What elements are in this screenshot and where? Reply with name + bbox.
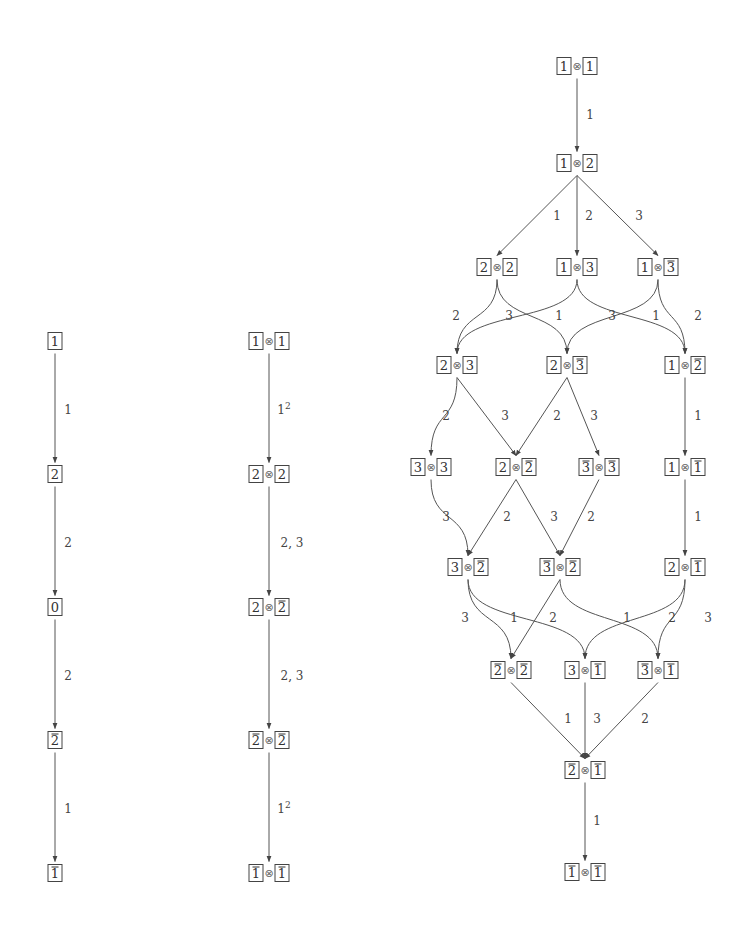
crystal-node: 0 xyxy=(48,599,62,616)
tableau-entry: 2 xyxy=(586,156,594,171)
edge-color-label: 2, 3 xyxy=(281,669,304,683)
tensor-product-symbol: ⊗ xyxy=(653,664,662,677)
tableau-entry: 2 xyxy=(252,600,260,615)
edge-color-label: 2 xyxy=(641,712,649,726)
tableau-entry: 3 xyxy=(568,663,576,678)
edge-color-label: 2 xyxy=(549,611,557,625)
tableau-entry: 2 xyxy=(440,358,448,373)
tableau-entry: 2 xyxy=(480,260,488,275)
edge-color-label: 3 xyxy=(550,510,558,524)
edge-color-label: 2 xyxy=(553,409,561,423)
tableau-entry: 2 xyxy=(477,560,485,575)
crystal-node: 2⊗2 xyxy=(249,732,289,749)
crystal-edge-arrow xyxy=(497,176,577,256)
tensor-product-symbol: ⊗ xyxy=(463,561,472,574)
tableau-entry: 2 xyxy=(569,560,577,575)
edge-color-label: 2 xyxy=(587,510,595,524)
tensor-product-symbol: ⊗ xyxy=(580,764,589,777)
edge-label-exponent: 2 xyxy=(285,800,291,810)
edge-color-label: 2 xyxy=(64,536,72,550)
crystal-node: 1⊗3 xyxy=(557,259,597,276)
edge-color-label: 3 xyxy=(635,209,643,223)
tableau-entry: 1 xyxy=(252,866,260,881)
tableau-entry: 3 xyxy=(641,663,649,678)
tableau-entry: 1 xyxy=(694,560,702,575)
tableau-entry: 2 xyxy=(278,600,286,615)
edge-color-label: 2 xyxy=(503,510,511,524)
crystal-node: 1⊗1 xyxy=(565,864,605,881)
edge-color-label: 1 xyxy=(652,309,660,323)
edge-color-label: 12 xyxy=(277,800,290,816)
crystal-node: 3⊗1 xyxy=(565,662,605,679)
crystal-node: 2⊗3 xyxy=(547,357,587,374)
tensor-product-symbol: ⊗ xyxy=(572,60,581,73)
tensor-product-symbol: ⊗ xyxy=(572,261,581,274)
crystal-node: 2 xyxy=(48,466,62,483)
tableau-entry: 3 xyxy=(576,358,584,373)
tableau-entry: 3 xyxy=(667,260,675,275)
crystal-node: 2⊗2 xyxy=(496,459,536,476)
tableau-entry: 2 xyxy=(568,763,576,778)
tableau-entry: 1 xyxy=(560,59,568,74)
edge-color-label: 1 xyxy=(64,403,72,417)
tableau-entry: 2 xyxy=(525,460,533,475)
crystal-edge-arrow xyxy=(560,580,658,659)
tensor-product-symbol: ⊗ xyxy=(653,261,662,274)
crystal-node: 1⊗3 xyxy=(638,259,678,276)
edge-color-label: 2 xyxy=(694,309,702,323)
edge-color-label: 3 xyxy=(442,510,450,524)
crystal-node: 3⊗2 xyxy=(540,559,580,576)
crystal-node: 1 xyxy=(48,865,62,882)
tensor-product-symbol: ⊗ xyxy=(452,359,461,372)
tableau-entry: 1 xyxy=(668,460,676,475)
tableau-entry: 3 xyxy=(543,560,551,575)
tensor-product-symbol: ⊗ xyxy=(264,468,273,481)
tensor-product-symbol: ⊗ xyxy=(594,461,603,474)
edge-color-label: 2 xyxy=(64,669,72,683)
edge-color-label: 3 xyxy=(590,409,598,423)
edge-color-label: 3 xyxy=(505,309,513,323)
edge-label-exponent: 2 xyxy=(285,401,291,411)
edge-color-label: 3 xyxy=(501,409,509,423)
tensor-product-symbol: ⊗ xyxy=(680,359,689,372)
tableau-entry: 3 xyxy=(608,460,616,475)
crystal-edge-arrow xyxy=(577,280,685,354)
edge-color-label: 1 xyxy=(553,209,561,223)
tableau-entry: 3 xyxy=(451,560,459,575)
tableau-entry: 3 xyxy=(582,460,590,475)
edge-color-label: 1 xyxy=(694,510,702,524)
edge-color-label: 1 xyxy=(64,802,72,816)
edge-color-label: 2 xyxy=(452,309,460,323)
tableau-entry: 1 xyxy=(560,260,568,275)
tableau-entry: 2 xyxy=(252,733,260,748)
nodes-layer: 120211⊗12⊗22⊗22⊗21⊗11⊗11⊗22⊗21⊗31⊗32⊗32⊗… xyxy=(48,58,705,882)
tensor-product-symbol: ⊗ xyxy=(511,461,520,474)
tensor-product-symbol: ⊗ xyxy=(264,867,273,880)
crystal-node: 3⊗3 xyxy=(579,459,619,476)
edge-color-label: 1 xyxy=(586,108,594,122)
crystal-graph-figure: 1221122, 32, 312112323131223231323213121… xyxy=(0,0,751,926)
tensor-product-symbol: ⊗ xyxy=(680,461,689,474)
tensor-product-symbol: ⊗ xyxy=(555,561,564,574)
tableau-entry: 1 xyxy=(278,334,286,349)
tensor-product-symbol: ⊗ xyxy=(264,601,273,614)
tableau-entry: 1 xyxy=(568,865,576,880)
tableau-entry: 2 xyxy=(494,663,502,678)
tableau-entry: 1 xyxy=(594,663,602,678)
crystal-node: 1⊗1 xyxy=(249,333,289,350)
edge-color-label: 1 xyxy=(694,409,702,423)
crystal-node: 2 xyxy=(48,732,62,749)
crystal-edge-arrow xyxy=(511,683,585,759)
edge-color-label: 3 xyxy=(608,309,616,323)
tableau-entry: 3 xyxy=(466,358,474,373)
crystal-node: 2⊗2 xyxy=(249,466,289,483)
crystal-node: 2⊗3 xyxy=(437,357,477,374)
tableau-entry: 1 xyxy=(667,663,675,678)
crystal-node: 2⊗1 xyxy=(665,559,705,576)
tableau-entry: 2 xyxy=(520,663,528,678)
tableau-entry: 2 xyxy=(51,733,59,748)
tensor-product-symbol: ⊗ xyxy=(572,157,581,170)
tableau-entry: 1 xyxy=(594,865,602,880)
tableau-entry: 1 xyxy=(51,334,59,349)
tableau-entry: 2 xyxy=(694,358,702,373)
